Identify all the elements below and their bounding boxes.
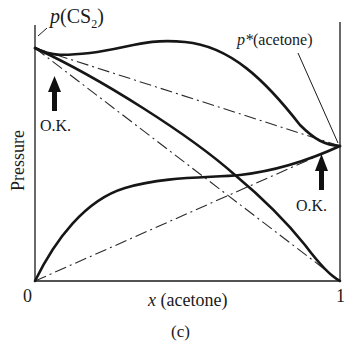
up-arrow-icon-right [315, 154, 328, 190]
label-p-cs2: p(CS2) [50, 5, 104, 32]
x-tick-0: 0 [23, 286, 32, 307]
label-acetone-species: (acetone) [253, 31, 313, 48]
up-arrow-icon-left [48, 76, 61, 111]
x-axis-label-var: x [148, 290, 156, 310]
figure-caption: (c) [171, 322, 190, 342]
x-axis-label-text: (acetone) [161, 290, 228, 310]
label-cs2-close: ) [97, 5, 104, 27]
label-cs2-species: (CS [60, 5, 91, 27]
total-pressure-curve [35, 41, 340, 146]
annotation-ok-left: O.K. [40, 117, 71, 135]
x-tick-1: 1 [336, 286, 345, 307]
y-axis-label: Pressure [8, 121, 29, 201]
label-p-star-acetone: p*(acetone) [237, 31, 313, 49]
x-axis-label: x (acetone) [148, 290, 227, 311]
annotation-ok-right: O.K. [296, 197, 327, 215]
label-acetone-p-symbol: p* [237, 31, 253, 48]
label-cs2-p-symbol: p [50, 5, 60, 27]
cs2-leader-line [38, 28, 47, 36]
raoult-total-line [35, 48, 340, 146]
